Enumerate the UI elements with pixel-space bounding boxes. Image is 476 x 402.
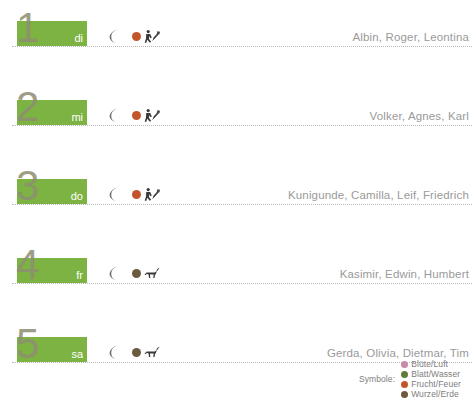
waning-moon-icon <box>106 187 119 202</box>
weekday-abbreviation: sa <box>17 348 83 360</box>
symbol-strip <box>106 105 160 125</box>
waning-moon-icon <box>106 29 119 44</box>
weekday-abbreviation: mi <box>17 111 83 123</box>
waning-moon-icon <box>106 266 119 281</box>
symbol-strip <box>106 26 160 46</box>
row-divider <box>12 204 472 205</box>
name-day-list: Gerda, Olivia, Dietmar, Tim <box>327 347 469 359</box>
name-day-list: Volker, Agnes, Karl <box>370 110 469 122</box>
legend: Symbole: Blüte/LuftBlatt/WasserFrucht/Fe… <box>0 359 470 399</box>
calendar-day-row[interactable]: 2miVolker, Agnes, Karl <box>0 79 476 158</box>
legend-entry: Wurzel/Erde <box>401 389 470 399</box>
legend-label: Frucht/Feuer <box>411 379 461 389</box>
sagittarius-archer-icon <box>144 187 160 202</box>
element-dot-wurzel-erde <box>132 348 141 357</box>
legend-title: Symbole: <box>359 374 395 384</box>
legend-label: Blüte/Luft <box>411 359 448 369</box>
legend-color-dot <box>401 391 408 398</box>
name-day-list: Albin, Roger, Leontina <box>353 31 469 43</box>
weekday-abbreviation: do <box>17 190 83 202</box>
element-dot-frucht-feuer <box>132 32 141 41</box>
capricorn-goat-icon <box>144 345 160 360</box>
element-dot-frucht-feuer <box>132 111 141 120</box>
name-day-list: Kunigunde, Camilla, Leif, Friedrich <box>288 189 469 201</box>
row-divider <box>12 125 472 126</box>
name-day-list: Kasimir, Edwin, Humbert <box>340 268 469 280</box>
legend-entry: Blüte/Luft <box>401 359 461 369</box>
waning-moon-icon <box>106 108 119 123</box>
legend-color-dot <box>401 361 408 368</box>
row-divider <box>12 283 472 284</box>
legend-color-dot <box>401 371 408 378</box>
sagittarius-archer-icon <box>144 108 160 123</box>
symbol-strip <box>106 184 160 204</box>
legend-entry-list: Blüte/LuftBlatt/WasserFrucht/FeuerWurzel… <box>401 359 470 399</box>
legend-entry: Blatt/Wasser <box>401 369 461 379</box>
calendar-day-row[interactable]: 4frKasimir, Edwin, Humbert <box>0 237 476 316</box>
sagittarius-archer-icon <box>144 29 160 44</box>
waning-moon-icon <box>106 345 119 360</box>
legend-label: Blatt/Wasser <box>411 369 460 379</box>
symbol-strip <box>106 342 160 362</box>
legend-entry: Frucht/Feuer <box>401 379 461 389</box>
weekday-abbreviation: fr <box>17 269 83 281</box>
symbol-strip <box>106 263 160 283</box>
calendar-day-row[interactable]: 1diAlbin, Roger, Leontina <box>0 0 476 79</box>
calendar-day-list: 1diAlbin, Roger, Leontina2miVolker, Agne… <box>0 0 476 395</box>
element-dot-frucht-feuer <box>132 190 141 199</box>
legend-color-dot <box>401 381 408 388</box>
element-dot-wurzel-erde <box>132 269 141 278</box>
weekday-abbreviation: di <box>17 32 83 44</box>
legend-label: Wurzel/Erde <box>411 389 459 399</box>
row-divider <box>12 46 472 47</box>
calendar-day-row[interactable]: 3doKunigunde, Camilla, Leif, Friedrich <box>0 158 476 237</box>
capricorn-goat-icon <box>144 266 160 281</box>
